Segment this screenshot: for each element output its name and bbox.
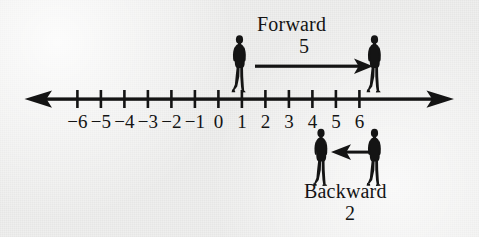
tick-label-5: 5 — [331, 112, 341, 131]
backward-magnitude: 2 — [345, 203, 355, 223]
tick-label--2: −2 — [161, 112, 181, 131]
tick-label-1: 1 — [237, 112, 247, 131]
forward-arrow — [255, 58, 373, 74]
tick-label--3: −3 — [138, 112, 158, 131]
tick-label-6: 6 — [355, 112, 365, 131]
person-at-3 — [313, 129, 327, 186]
tick-label--1: −1 — [185, 112, 205, 131]
forward-magnitude: 5 — [299, 36, 309, 56]
tick-label--4: −4 — [114, 112, 134, 131]
tick-label--6: −6 — [67, 112, 87, 131]
number-line-figure: −6 −5 −4 −3 −2 −1 0 1 2 3 4 5 6 Forward … — [0, 0, 479, 237]
tick-label--5: −5 — [91, 112, 111, 131]
axis-line — [32, 97, 446, 100]
tick-label-3: 3 — [284, 112, 294, 131]
person-at-5-below — [367, 129, 381, 186]
tick-label-2: 2 — [261, 112, 271, 131]
person-at-0 — [232, 35, 246, 92]
person-at-5-above — [367, 35, 381, 92]
backward-label: Backward — [304, 181, 387, 201]
tick-label-0: 0 — [214, 112, 224, 131]
forward-label: Forward — [257, 14, 326, 34]
number-line-axis — [25, 90, 455, 107]
tick-label-4: 4 — [308, 112, 318, 131]
